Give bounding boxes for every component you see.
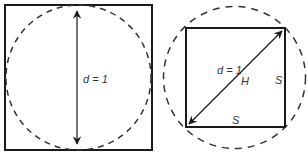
diagram-canvas: d = 1 d = 1 H S S	[0, 0, 307, 159]
side-bottom-label: S	[232, 114, 240, 126]
inscribed-circle	[6, 5, 151, 150]
hypotenuse-label: H	[241, 75, 249, 87]
left-diameter-label: d = 1	[83, 73, 108, 85]
diagonal-arrow	[189, 31, 282, 124]
right-diameter-label: d = 1	[217, 64, 242, 76]
side-right-label: S	[275, 74, 283, 86]
left-figure: d = 1	[5, 5, 152, 150]
right-figure: d = 1 H S S	[164, 7, 306, 149]
